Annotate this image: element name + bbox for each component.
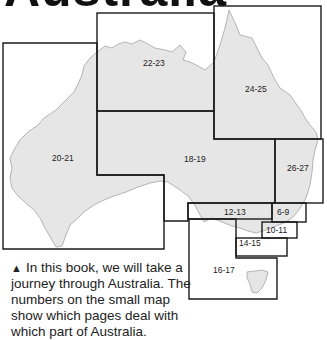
triangle-marker-icon: ▲: [11, 262, 22, 274]
region-label-24-25: 24-25: [245, 84, 267, 94]
region-label-26-27: 26-27: [287, 163, 309, 173]
region-label-10-11: 10-11: [266, 225, 287, 235]
map-caption: ▲In this book, we will take a journey th…: [11, 260, 201, 340]
region-label-14-15: 14-15: [239, 238, 261, 248]
caption-text: In this book, we will take a journey thr…: [11, 260, 191, 339]
region-label-6-9: 6-9: [277, 207, 289, 217]
region-label-22-23: 22-23: [143, 58, 165, 68]
tasmania-landmass: [247, 270, 268, 293]
region-label-18-19: 18-19: [184, 154, 206, 164]
region-label-20-21: 20-21: [52, 153, 74, 163]
region-label-16-17: 16-17: [213, 265, 235, 275]
region-label-12-13: 12-13: [224, 207, 246, 217]
